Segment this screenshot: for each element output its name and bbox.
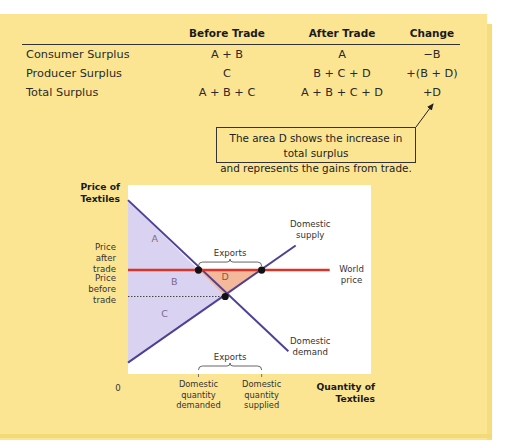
- exports-label-top: Exports: [214, 248, 247, 258]
- point-quantity-demanded: [195, 266, 202, 273]
- domestic-demand-label: Domesticdemand: [290, 336, 331, 357]
- point-quantity-supplied: [258, 266, 265, 273]
- x-axis-title: Quantity ofTextiles: [316, 381, 376, 404]
- point-equilibrium: [222, 293, 229, 300]
- area-b-label: B: [171, 276, 178, 287]
- world-price-label: Worldprice: [339, 264, 364, 285]
- area-d-label: D: [222, 271, 229, 282]
- x-tick-label: Domesticquantitysupplied: [242, 379, 282, 410]
- area-a-label: A: [151, 233, 158, 244]
- x-tick-label: Domesticquantitydemanded: [176, 379, 220, 410]
- exports-label-bottom: Exports: [214, 352, 247, 362]
- trade-surplus-chart: ABCDExportsExportsDomesticsupplyDomestic…: [0, 0, 505, 448]
- origin-label: 0: [115, 383, 120, 393]
- y-tick-label: Priceaftertrade: [93, 242, 116, 274]
- y-axis-title: Price ofTextiles: [80, 181, 121, 204]
- area-c-label: C: [161, 308, 168, 319]
- y-tick-label: Pricebeforetrade: [88, 273, 116, 305]
